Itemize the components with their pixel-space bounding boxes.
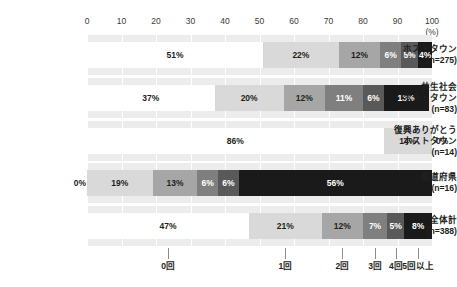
category-label-line: (n=388) — [373, 226, 457, 237]
bar-segment: 21% — [249, 213, 321, 239]
legend-leader-line — [342, 248, 343, 259]
x-axis-tick-30: 30 — [176, 16, 206, 26]
category-label-line: 都道府県 — [373, 172, 457, 183]
x-axis-tick-50: 50 — [245, 16, 275, 26]
segment-value-label: 6% — [222, 179, 234, 188]
category-label-line: 全体計 — [373, 215, 457, 226]
segment-value-label: 21% — [277, 222, 294, 231]
legend-item-2回: 2回 — [335, 259, 349, 271]
bar-segment: 47% — [87, 213, 249, 239]
x-axis-tick-70: 70 — [314, 16, 344, 26]
x-axis-tick-80: 80 — [348, 16, 378, 26]
category-label-line: ホストタウン — [373, 136, 457, 147]
segment-value-label: 20% — [241, 94, 258, 103]
bar-segment: 6% — [218, 170, 239, 196]
legend-leader-line — [418, 248, 419, 259]
bar-segment: 51% — [87, 42, 263, 68]
bar-segment: 22% — [263, 42, 339, 68]
category-label: ホストタウン(n=275) — [373, 44, 457, 66]
category-label-line: (n=83) — [373, 104, 457, 115]
bar-segment: 12% — [322, 213, 363, 239]
category-label-line: (n=16) — [373, 183, 457, 194]
legend-item-5回以上: 5回以上 — [402, 259, 434, 271]
bar-segment: 11% — [325, 85, 363, 111]
segment-value-label: 56% — [327, 179, 344, 188]
legend-leader-line — [375, 248, 376, 259]
bar-segment: 19% — [87, 170, 153, 196]
legend-leader-line — [168, 248, 169, 259]
legend-leader-line — [285, 248, 286, 259]
x-axis-tick-60: 60 — [279, 16, 309, 26]
segment-value-label: 12% — [296, 94, 313, 103]
x-axis-tick-90: 90 — [383, 16, 413, 26]
segment-value-label-outside-left: 0% — [74, 170, 87, 196]
category-label-line: ホストタウン — [373, 93, 457, 104]
category-label: 都道府県(n=16) — [373, 172, 457, 194]
bar-segment: 12% — [284, 85, 325, 111]
bar-segment: 20% — [215, 85, 284, 111]
segment-value-label: 11% — [336, 94, 353, 103]
legend: 0回1回2回3回4回5回以上 — [0, 248, 457, 287]
segment-value-label: 6% — [202, 179, 214, 188]
segment-value-label: 86% — [227, 137, 244, 146]
bar-segment: 86% — [87, 128, 384, 154]
legend-item-1回: 1回 — [278, 259, 292, 271]
category-label-line: 共生社会 — [373, 82, 457, 93]
legend-item-3回: 3回 — [368, 259, 382, 271]
category-label-line: (n=275) — [373, 55, 457, 66]
segment-value-label: 47% — [160, 222, 177, 231]
bar-segment: 13% — [153, 170, 198, 196]
segment-value-label: 19% — [111, 179, 128, 188]
category-label: 復興ありがとうホストタウン(n=14) — [373, 125, 457, 158]
x-axis-tick-0: 0 — [72, 16, 102, 26]
segment-value-label: 51% — [166, 51, 183, 60]
category-label-line: 復興ありがとう — [373, 125, 457, 136]
segment-value-label: 13% — [166, 179, 183, 188]
segment-value-label: 37% — [142, 94, 159, 103]
segment-value-label: 12% — [351, 51, 368, 60]
segment-value-label: 22% — [292, 51, 309, 60]
segment-value-label: 12% — [334, 222, 351, 231]
category-label-line: (n=14) — [373, 147, 457, 158]
category-label: 共生社会ホストタウン(n=83) — [373, 82, 457, 115]
x-axis-tick-10: 10 — [107, 16, 137, 26]
category-label: 全体計(n=388) — [373, 215, 457, 237]
category-label-line: ホストタウン — [373, 44, 457, 55]
x-axis-tick-20: 20 — [141, 16, 171, 26]
x-axis-tick-100: 100 — [417, 16, 447, 26]
legend-item-4回: 4回 — [389, 259, 403, 271]
stacked-bar-chart: 0102030405060708090100 (%) 51%22%12%6%5%… — [0, 0, 457, 287]
legend-item-0回: 0回 — [161, 259, 175, 271]
x-axis-tick-40: 40 — [210, 16, 240, 26]
bar-segment: 6% — [197, 170, 218, 196]
legend-leader-line — [396, 248, 397, 259]
bar-segment: 37% — [87, 85, 215, 111]
